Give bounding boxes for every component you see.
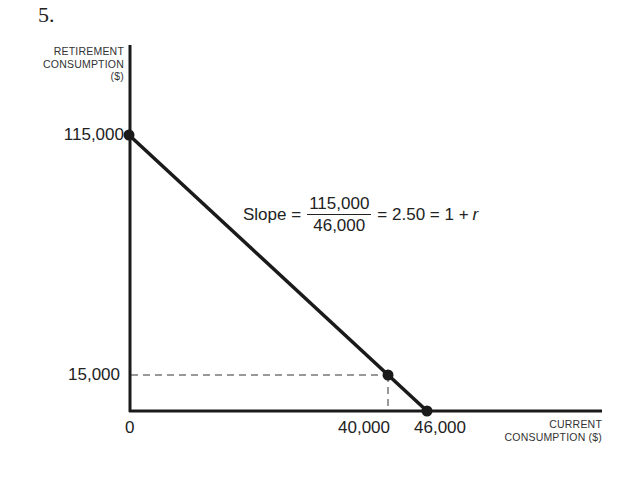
slope-fraction: 115,000 46,000	[307, 194, 371, 235]
chart-plot-area	[0, 0, 630, 480]
x-tick-label: 0	[125, 418, 134, 438]
slope-suffix: = 2.50 = 1 +	[377, 205, 468, 225]
x-tick-label: 40,000	[338, 418, 390, 438]
x-axis-label-line: CONSUMPTION ($)	[505, 431, 603, 444]
x-tick-label: 46,000	[414, 418, 466, 438]
data-point	[383, 370, 394, 381]
budget-line	[129, 135, 427, 411]
y-tick-label: 115,000	[4, 125, 124, 145]
data-point	[422, 406, 433, 417]
slope-prefix: Slope =	[243, 205, 301, 225]
x-axis-label-line: CURRENT	[505, 418, 603, 431]
fraction-numerator: 115,000	[307, 194, 371, 215]
fraction-denominator: 46,000	[313, 215, 365, 235]
y-tick-label: 15,000	[0, 365, 120, 385]
slope-annotation: Slope = 115,000 46,000 = 2.50 = 1 + r	[243, 194, 478, 235]
interest-rate-variable: r	[473, 205, 479, 225]
x-axis-label: CURRENT CONSUMPTION ($)	[505, 418, 603, 444]
data-point	[124, 130, 135, 141]
